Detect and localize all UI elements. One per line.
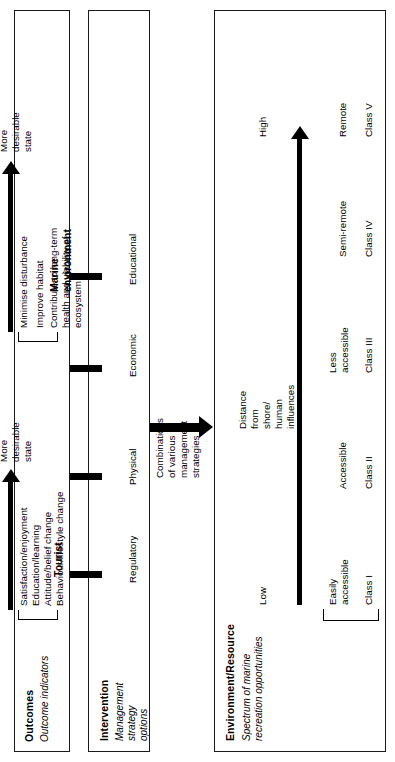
gradient-start-label: Low	[257, 545, 269, 605]
class-label-2: Class II	[363, 429, 375, 489]
outcomes-box-subtitle: Outcome indicators	[39, 602, 51, 742]
intervention-arrow-economic	[66, 365, 102, 372]
class-label-4: Class IV	[363, 197, 375, 257]
outcomes-box-title: Outcomes	[23, 622, 35, 742]
gradient-axis-caption: Distance from shore/ human influences	[237, 319, 297, 429]
environment-resource-box: Environment/Resource Spectrum of marine …	[214, 10, 386, 752]
class-label-1: Class I	[363, 545, 375, 605]
outcome-indicator-improve-habitat: Improve habitat	[34, 178, 46, 328]
marine-direction-arrow	[8, 172, 13, 332]
access-label-4: Semi-remote	[337, 171, 349, 257]
class-label-3: Class III	[363, 313, 375, 373]
intervention-option-economic: Economic	[127, 287, 139, 377]
gradient-arrow	[297, 137, 302, 605]
tourist-direction-arrow	[8, 480, 13, 610]
figure-rotation-wrapper: Environment/Resource Spectrum of marine …	[0, 0, 395, 762]
intervention-arrow-physical	[66, 473, 102, 480]
intervention-box-title: Intervention	[98, 621, 110, 741]
access-label-2: Accessible	[337, 415, 349, 489]
intervention-arrow-regulatory	[66, 571, 102, 578]
intervention-option-physical: Physical	[127, 395, 139, 485]
access-label-3: Less accessible	[327, 299, 351, 373]
connector-caption: Combinations of various management strat…	[154, 358, 202, 478]
access-label-1: Easily accessible	[327, 531, 351, 605]
intervention-option-educational: Educational	[127, 195, 139, 285]
intervention-box: Intervention Management strategy options…	[88, 10, 150, 752]
outcome-indicator-long-term-health: Contribute to long-term health and viabi…	[48, 138, 84, 328]
class-group-bracket	[323, 609, 379, 621]
marine-direction-label: More desirable state	[0, 62, 34, 152]
tourist-direction-label: More desirable state	[0, 372, 34, 462]
access-label-5: Remote	[337, 63, 349, 137]
outcome-indicator-behaviour: Behaviour/lifestyle change	[54, 446, 66, 606]
gradient-end-label: High	[257, 77, 269, 137]
diagram-canvas: Environment/Resource Spectrum of marine …	[0, 0, 395, 762]
outcome-indicator-attitude: Attitude/belief change	[42, 456, 54, 606]
outcome-indicator-minimise-disturbance: Minimise disturbance	[18, 178, 30, 328]
marine-indicator-bracket	[18, 332, 58, 342]
intervention-option-regulatory: Regulatory	[127, 493, 139, 583]
class-label-5: Class V	[363, 77, 375, 137]
outcome-indicator-education: Education/learning	[30, 456, 42, 606]
outcome-indicator-satisfaction: Satisfaction/enjoyment	[18, 456, 30, 606]
intervention-box-subtitle: Management strategy options	[114, 621, 150, 741]
environment-box-title: Environment/Resource	[224, 571, 236, 741]
tourist-indicator-bracket	[18, 610, 58, 620]
connector-down-arrow	[150, 423, 200, 432]
